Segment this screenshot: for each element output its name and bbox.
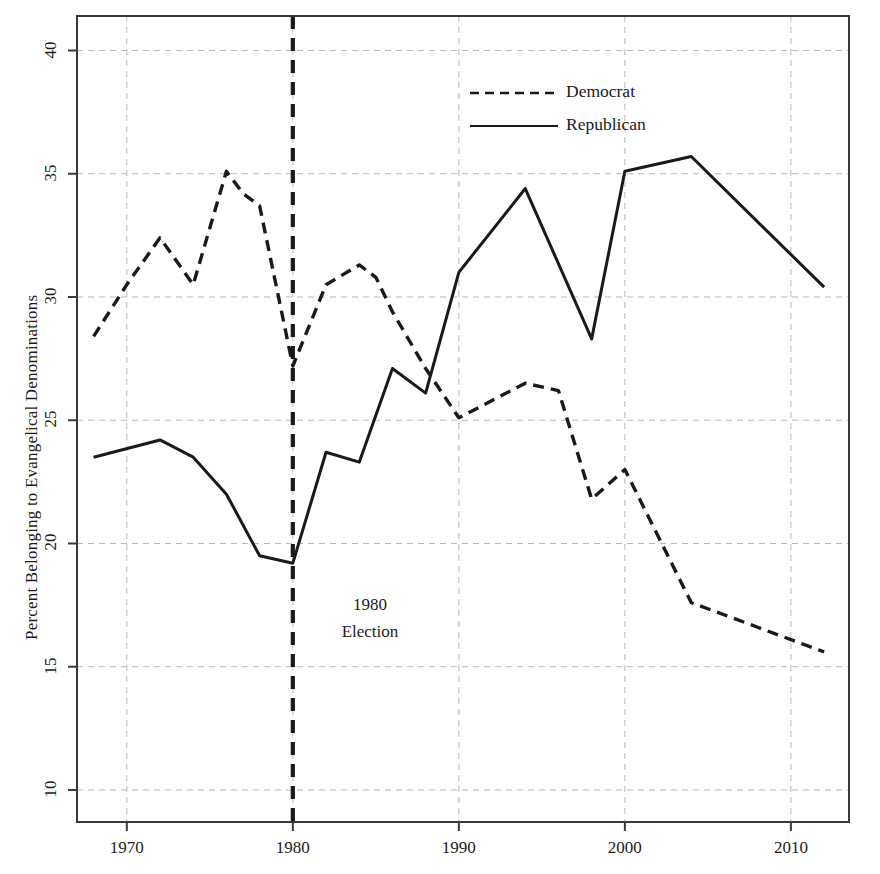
legend-swatch-democrat <box>470 86 562 100</box>
y-tick-label: 40 <box>41 41 61 58</box>
x-tick-label: 1970 <box>102 838 152 858</box>
legend-swatch-republican <box>470 119 562 133</box>
x-tick-label: 1980 <box>268 838 318 858</box>
y-tick-label: 10 <box>41 780 61 797</box>
evangelical-denominations-chart: Percent Belonging to Evangelical Denomin… <box>0 0 880 874</box>
x-tick-label: 2000 <box>600 838 650 858</box>
y-tick-label: 20 <box>41 534 61 551</box>
legend-label-democrat: Democrat <box>566 81 635 102</box>
y-tick-label: 15 <box>41 657 61 674</box>
legend-label-republican: Republican <box>566 114 646 135</box>
plot-background <box>77 16 849 822</box>
x-tick-label: 2010 <box>766 838 816 858</box>
y-tick-label: 30 <box>41 287 61 304</box>
chart-canvas <box>0 0 880 874</box>
y-tick-label: 35 <box>41 164 61 181</box>
election-annotation-label: Election <box>330 622 410 642</box>
y-axis-title: Percent Belonging to Evangelical Denomin… <box>22 295 42 640</box>
election-annotation-year: 1980 <box>330 595 410 615</box>
y-tick-label: 25 <box>41 411 61 428</box>
x-tick-label: 1990 <box>434 838 484 858</box>
